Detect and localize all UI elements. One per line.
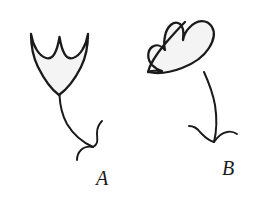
figure-a-head	[31, 34, 88, 95]
figure-b-label: B	[222, 158, 234, 178]
figure-a-tail-barb-upper	[93, 121, 102, 147]
figure-drawing	[0, 0, 256, 200]
figure-b-group	[148, 21, 237, 142]
figure-a-tail	[60, 95, 94, 147]
figure-a-tail-barb-lower	[77, 147, 93, 160]
figure-b-tail-barb-right	[214, 132, 237, 142]
figure-b-tail-barb-left	[189, 126, 214, 142]
figure-a-label: A	[96, 168, 108, 188]
figure-a-group	[31, 34, 102, 160]
figure-b-head	[148, 21, 214, 73]
figure-b-tail	[204, 72, 216, 142]
figure-panel: A B	[0, 0, 256, 200]
